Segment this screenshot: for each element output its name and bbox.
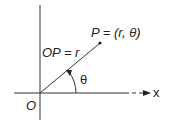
point-label: P = (r, θ) [91,26,141,39]
angle-label: θ [80,73,87,86]
point-p [98,41,101,44]
origin-label: O [26,99,36,112]
arrow-head-icon [143,90,151,96]
segment-label: OP = r [42,46,79,59]
axis-label: x [153,86,160,99]
